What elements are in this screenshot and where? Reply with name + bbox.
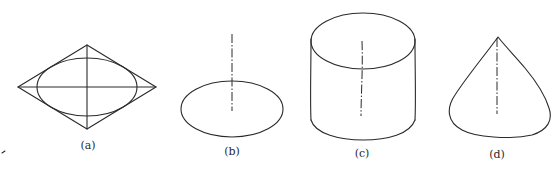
cylinder-top-ellipse: [311, 13, 415, 69]
stray-mark: [2, 151, 5, 153]
panel-a-label: (a): [80, 139, 95, 152]
center-axis: [361, 41, 362, 116]
panel-b-label: (b): [224, 145, 240, 158]
panel-c-drawing: [311, 13, 416, 140]
panel-c-label: (c): [355, 147, 370, 160]
cylinder-bottom-curve: [311, 120, 415, 140]
cone-outline: [449, 37, 550, 137]
panel-d-label: (d): [489, 148, 505, 161]
panel-b-drawing: [181, 34, 283, 137]
panel-a-drawing: [18, 45, 156, 129]
panel-d-drawing: [449, 37, 550, 137]
